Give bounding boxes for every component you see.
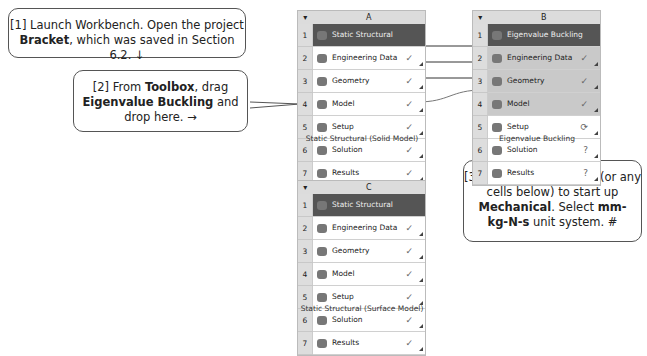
cell-geometry[interactable]: Geometry✓ (313, 240, 426, 263)
corner-icon (594, 154, 598, 158)
collapse-icon[interactable]: ▾ (298, 181, 313, 194)
collapse-icon[interactable]: ▾ (473, 11, 488, 24)
callout-text: unit system. # (529, 215, 617, 229)
row-number: 2 (473, 47, 488, 70)
row-number: 2 (298, 47, 313, 70)
cell-model[interactable]: Model✓ (313, 263, 426, 286)
corner-icon (419, 62, 423, 66)
system-a-caption[interactable]: Static Structural (Solid Model) (297, 134, 427, 143)
cell-icon (317, 123, 327, 132)
corner-icon (594, 85, 598, 89)
corner-icon (594, 177, 598, 181)
cell-icon (492, 100, 502, 109)
cell-static-structural[interactable]: Static Structural (313, 194, 426, 217)
callout-text: , drag (195, 80, 229, 94)
callout-text: and (213, 95, 238, 109)
status-icon: ✓ (580, 99, 588, 109)
cell-engineering-data[interactable]: Engineering Data✓ (313, 217, 426, 240)
status-icon: ✓ (405, 145, 413, 155)
status-icon: ✓ (405, 315, 413, 325)
callout-text: Bracket (20, 33, 70, 47)
corner-icon (419, 85, 423, 89)
system-c-caption[interactable]: Static Structural (Surface Model) (297, 304, 427, 313)
callout-step-2: [2] From Toolbox, dragEigenvalue Bucklin… (73, 70, 248, 132)
corner-icon (594, 62, 598, 66)
row-number: 7 (298, 332, 313, 355)
cell-icon (492, 31, 502, 40)
cell-model[interactable]: Model✓ (488, 93, 601, 116)
cell-icon (492, 169, 502, 178)
cell-label: Model (332, 269, 355, 278)
row-number: 4 (473, 93, 488, 116)
cell-eigenvalue-buckling[interactable]: Eigenvalue Buckling (488, 24, 601, 47)
cell-label: Results (507, 168, 534, 177)
cell-icon (317, 247, 327, 256)
cell-label: Setup (507, 122, 529, 131)
row-number: 1 (473, 24, 488, 47)
cell-label: Geometry (507, 76, 544, 85)
cell-icon (317, 100, 327, 109)
column-header: C (313, 181, 426, 194)
system-b-caption[interactable]: Eigenvalue Buckling (472, 134, 602, 143)
row-number: 3 (298, 70, 313, 93)
row-number: 1 (298, 194, 313, 217)
cell-results[interactable]: Results? (488, 162, 601, 185)
row-number: 3 (473, 70, 488, 93)
cell-icon (317, 54, 327, 63)
corner-icon (419, 232, 423, 236)
status-icon: ✓ (580, 53, 588, 63)
cell-icon (317, 316, 327, 325)
cell-label: Eigenvalue Buckling (507, 30, 583, 39)
system-c[interactable]: ▾C1Static Structural2Engineering Data✓3G… (297, 180, 426, 356)
callout-text: (or any (596, 170, 641, 184)
cell-icon (492, 123, 502, 132)
cell-geometry[interactable]: Geometry✓ (313, 70, 426, 93)
cell-label: Geometry (332, 246, 369, 255)
cell-label: Setup (332, 122, 354, 131)
cell-label: Setup (332, 292, 354, 301)
collapse-icon[interactable]: ▾ (298, 11, 313, 24)
callout-text: [1] Launch Workbench. Open the project (10, 18, 244, 32)
row-number: 4 (298, 93, 313, 116)
cell-results[interactable]: Results✓ (313, 332, 426, 355)
cell-icon (317, 339, 327, 348)
cell-icon (317, 293, 327, 302)
callout-text: Mechanical (479, 200, 552, 214)
status-icon: ? (583, 145, 588, 155)
column-header: B (488, 11, 601, 24)
callout-text: kg-N-s (487, 215, 529, 229)
cell-engineering-data[interactable]: Engineering Data✓ (313, 47, 426, 70)
cell-label: Static Structural (332, 30, 393, 39)
status-icon: ⟳ (580, 122, 588, 132)
cell-model[interactable]: Model✓ (313, 93, 426, 116)
cell-icon (492, 146, 502, 155)
cell-icon (317, 146, 327, 155)
corner-icon (419, 154, 423, 158)
cell-static-structural[interactable]: Static Structural (313, 24, 426, 47)
callout-text: [2] From (93, 80, 145, 94)
row-number: 2 (298, 217, 313, 240)
callout-text: cells below) to start up (487, 185, 619, 199)
status-icon: ✓ (405, 223, 413, 233)
cell-geometry[interactable]: Geometry✓ (488, 70, 601, 93)
cell-icon (317, 270, 327, 279)
cell-label: Solution (332, 145, 363, 154)
cell-icon (317, 169, 327, 178)
cell-icon (317, 77, 327, 86)
cell-label: Results (332, 168, 359, 177)
callout-text: Eigenvalue Buckling (82, 95, 213, 109)
cell-icon (492, 77, 502, 86)
status-icon: ? (583, 168, 588, 178)
system-b[interactable]: ▾B1Eigenvalue Buckling2Engineering Data✓… (472, 10, 601, 186)
cell-label: Geometry (332, 76, 369, 85)
system-a[interactable]: ▾A1Static Structural2Engineering Data✓3G… (297, 10, 426, 186)
status-icon: ✓ (405, 168, 413, 178)
corner-icon (594, 108, 598, 112)
cell-engineering-data[interactable]: Engineering Data✓ (488, 47, 601, 70)
cell-icon (492, 54, 502, 63)
cell-label: Solution (332, 315, 363, 324)
corner-icon (419, 324, 423, 328)
status-icon: ✓ (405, 76, 413, 86)
row-number: 4 (298, 263, 313, 286)
status-icon: ✓ (405, 53, 413, 63)
